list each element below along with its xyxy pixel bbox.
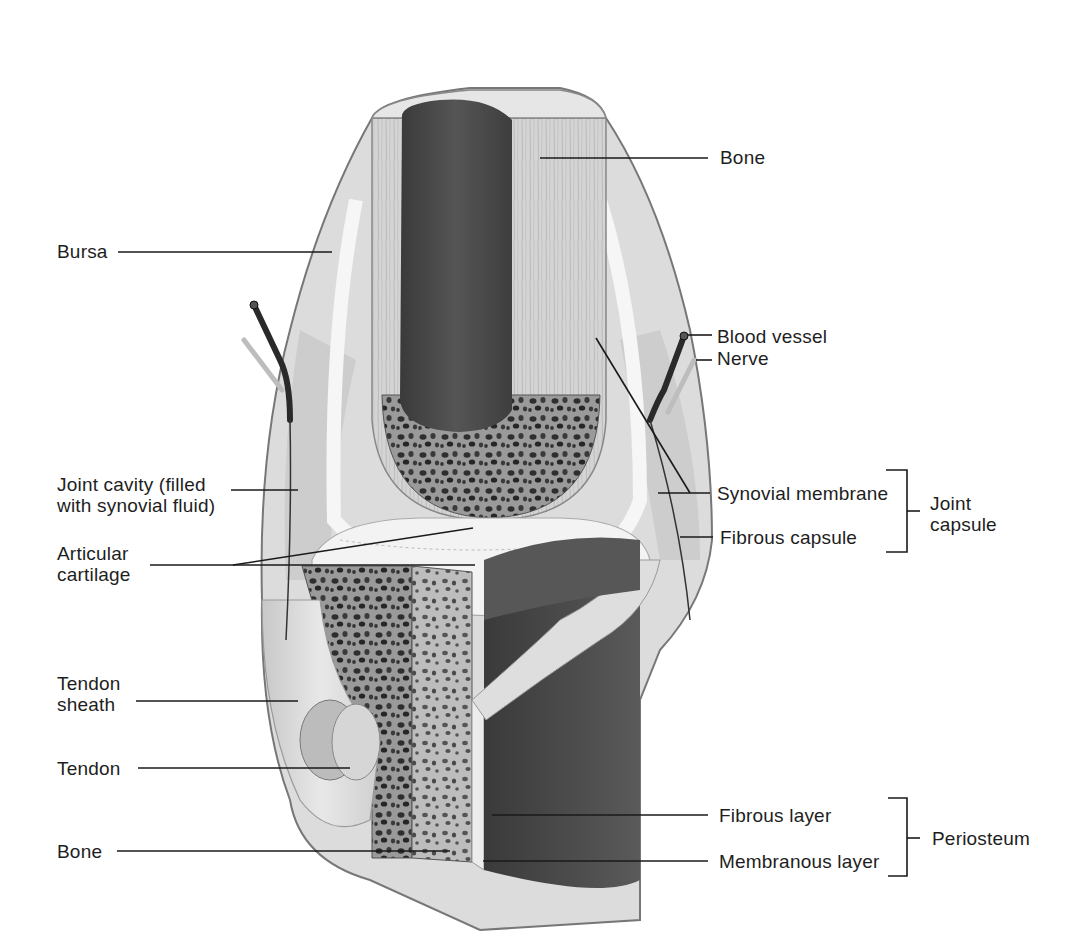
label-bursa: Bursa bbox=[57, 241, 108, 262]
label-fibrous-layer: Fibrous layer bbox=[719, 805, 831, 826]
label-tendon-sheath-1: Tendon bbox=[57, 673, 121, 694]
label-tendon: Tendon bbox=[57, 758, 121, 779]
label-joint-capsule-2: capsule bbox=[930, 514, 997, 535]
label-joint-capsule-1: Joint bbox=[930, 493, 971, 514]
label-bone-top: Bone bbox=[720, 147, 765, 168]
label-articular-cartilage-1: Articular bbox=[57, 543, 128, 564]
label-membranous-layer: Membranous layer bbox=[719, 851, 880, 872]
label-nerve: Nerve bbox=[717, 348, 769, 369]
upper-bone bbox=[372, 90, 606, 520]
label-synovial-membrane: Synovial membrane bbox=[717, 483, 888, 504]
label-bone-bottom: Bone bbox=[57, 841, 102, 862]
label-articular-cartilage-2: cartilage bbox=[57, 564, 131, 585]
bracket-joint-capsule bbox=[886, 470, 907, 552]
label-joint-cavity-2: with synovial fluid) bbox=[57, 495, 215, 516]
label-fibrous-capsule: Fibrous capsule bbox=[720, 527, 857, 548]
bracket-periosteum bbox=[888, 798, 907, 876]
label-periosteum: Periosteum bbox=[932, 828, 1030, 849]
label-tendon-sheath-2: sheath bbox=[57, 694, 115, 715]
label-blood-vessel: Blood vessel bbox=[717, 326, 827, 347]
label-joint-cavity-1: Joint cavity (filled bbox=[57, 474, 206, 495]
diagram-canvas: Bone Bursa Blood vessel Nerve Joint cavi… bbox=[0, 0, 1073, 947]
